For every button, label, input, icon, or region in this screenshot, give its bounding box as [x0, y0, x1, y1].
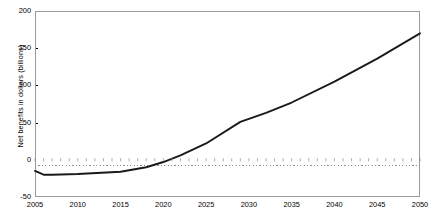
series-layer — [0, 0, 434, 221]
chart-container: Net benefits in dollars (billions) 20015… — [0, 0, 434, 221]
series-line-net-benefits — [35, 33, 420, 174]
